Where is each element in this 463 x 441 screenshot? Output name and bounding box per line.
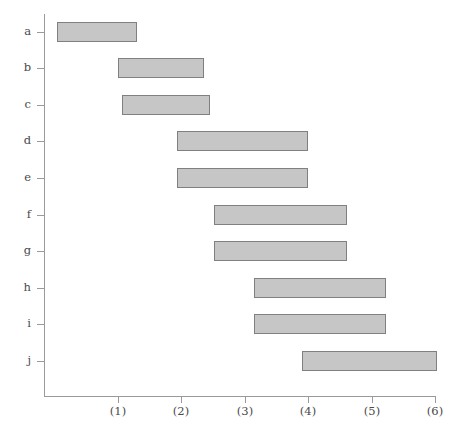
- gantt-chart: abcdefghij (1)(2)(3)(4)(5)(6): [0, 0, 463, 441]
- bar-a: [57, 22, 136, 42]
- y-axis-tick-h: [37, 288, 44, 289]
- y-axis-tick-f: [37, 215, 44, 216]
- y-axis-label-c: c: [25, 99, 31, 111]
- x-axis-line: [44, 396, 436, 397]
- bar-h: [254, 278, 386, 298]
- y-axis-label-i: i: [27, 318, 31, 330]
- bar-j: [302, 351, 437, 371]
- x-axis-tick-4: [308, 396, 309, 403]
- y-axis-line: [44, 14, 45, 397]
- y-axis-label-e: e: [24, 172, 31, 184]
- x-axis-label-5: (5): [364, 406, 380, 418]
- x-axis-label-6: (6): [427, 406, 443, 418]
- y-axis-label-a: a: [24, 26, 31, 38]
- x-axis-tick-1: [118, 396, 119, 403]
- bar-d: [177, 131, 308, 151]
- y-axis-tick-e: [37, 178, 44, 179]
- y-axis-label-g: g: [24, 245, 31, 257]
- bar-c: [122, 95, 210, 115]
- x-axis-tick-5: [372, 396, 373, 403]
- y-axis-label-b: b: [24, 62, 31, 74]
- y-axis-tick-a: [37, 32, 44, 33]
- y-axis-label-j: j: [27, 355, 31, 367]
- y-axis-label-f: f: [27, 209, 31, 221]
- x-axis-label-1: (1): [110, 406, 126, 418]
- y-axis-tick-i: [37, 324, 44, 325]
- y-axis-tick-j: [37, 361, 44, 362]
- y-axis-tick-c: [37, 105, 44, 106]
- y-axis-tick-b: [37, 68, 44, 69]
- bar-f: [214, 205, 347, 225]
- x-axis-label-2: (2): [173, 406, 189, 418]
- x-axis-label-3: (3): [237, 406, 253, 418]
- y-axis-label-d: d: [24, 135, 31, 147]
- y-axis-tick-d: [37, 141, 44, 142]
- x-axis-tick-2: [181, 396, 182, 403]
- bar-i: [254, 314, 386, 334]
- bar-g: [214, 241, 347, 261]
- bar-b: [118, 58, 204, 78]
- x-axis-label-4: (4): [300, 406, 316, 418]
- x-axis-tick-3: [245, 396, 246, 403]
- bar-e: [177, 168, 308, 188]
- plot-area: abcdefghij (1)(2)(3)(4)(5)(6): [0, 0, 463, 441]
- x-axis-tick-6: [435, 396, 436, 403]
- y-axis-tick-g: [37, 251, 44, 252]
- y-axis-label-h: h: [24, 282, 31, 294]
